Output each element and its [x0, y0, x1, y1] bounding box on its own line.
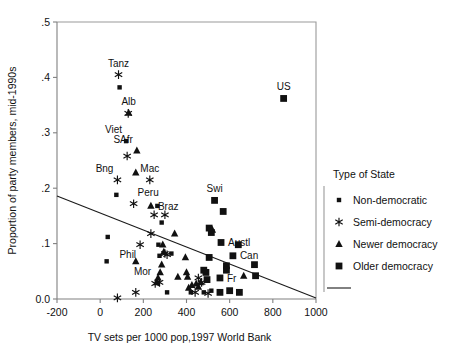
data-point-star — [161, 210, 168, 219]
legend-item-label: Semi-democracy — [353, 216, 433, 228]
data-point-triangle — [133, 146, 140, 153]
data-point-big-square — [206, 254, 213, 261]
data-point-big-square — [235, 241, 242, 248]
data-point-star — [114, 294, 121, 303]
legend-title: Type of State — [333, 168, 395, 180]
data-point-triangle — [174, 273, 181, 280]
point-label: Can — [240, 250, 258, 261]
data-point-triangle — [147, 202, 154, 209]
legend-marker-star — [335, 218, 342, 227]
data-point-big-square — [226, 287, 233, 294]
point-label: Swi — [206, 183, 222, 194]
legend-item-label: Newer democracy — [353, 238, 438, 250]
data-point-triangle — [156, 268, 163, 275]
data-point-big-square — [200, 267, 207, 274]
scatter-plot-figure: 0.0.1.2.3.4.5-20002004006008001000TV set… — [0, 0, 449, 350]
data-point-big-square — [204, 276, 211, 283]
data-point-big-square — [236, 289, 243, 296]
data-point-star — [115, 70, 122, 79]
data-point-star — [130, 199, 137, 208]
x-tick-label: 800 — [264, 306, 282, 318]
data-point-big-square — [230, 252, 237, 259]
x-tick-label: -200 — [46, 306, 67, 318]
x-tick-label: 400 — [178, 306, 196, 318]
legend-marker-big-square — [336, 263, 343, 270]
x-tick-label: 200 — [135, 306, 153, 318]
legend-item-label: Non-democratic — [353, 194, 427, 206]
data-point-small-square — [114, 193, 118, 197]
x-axis-title: TV sets per 1000 pop,1997 World Bank — [88, 331, 272, 343]
point-label: SAfr — [113, 134, 133, 145]
point-label: Peru — [138, 187, 159, 198]
data-point-triangle — [171, 230, 178, 237]
data-point-star — [136, 240, 143, 249]
data-point-triangle — [183, 268, 190, 275]
y-tick-label: .5 — [41, 16, 50, 28]
x-tick-label: 1000 — [304, 306, 328, 318]
y-tick-label: .4 — [41, 71, 50, 83]
data-point-big-square — [217, 275, 224, 282]
point-label: Phil — [119, 249, 136, 260]
data-point-big-square — [251, 261, 258, 268]
legend-item-label: Older democracy — [353, 260, 434, 272]
y-tick-label: 0.0 — [35, 293, 50, 305]
data-point-star — [150, 210, 157, 219]
x-tick-label: 600 — [221, 306, 239, 318]
data-point-big-square — [220, 208, 227, 215]
point-label: Tanz — [108, 58, 129, 69]
y-axis-title: Proportion of party members, mid-1990s — [6, 67, 18, 255]
data-point-triangle — [182, 253, 189, 260]
y-tick-label: .1 — [41, 237, 50, 249]
legend-marker-triangle — [335, 240, 342, 247]
data-point-star — [146, 176, 153, 185]
x-tick-label: 0 — [97, 306, 103, 318]
point-label: US — [277, 81, 291, 92]
trend-line — [57, 196, 316, 298]
data-point-small-square — [159, 220, 163, 224]
data-point-triangle — [160, 248, 167, 255]
point-label: Braz — [158, 201, 179, 212]
data-point-triangle — [240, 272, 247, 279]
point-label: Mac — [140, 163, 159, 174]
data-point-small-square — [165, 290, 169, 294]
chart-canvas: 0.0.1.2.3.4.5-20002004006008001000TV set… — [0, 0, 449, 350]
data-point-small-square — [106, 235, 110, 239]
data-point-triangle — [132, 169, 139, 176]
data-point-small-square — [117, 85, 121, 89]
data-point-big-square — [280, 95, 287, 102]
point-label: Alb — [121, 96, 136, 107]
legend-marker-small-square — [337, 198, 341, 202]
data-point-big-square — [218, 239, 225, 246]
data-point-big-square — [252, 272, 259, 279]
y-tick-label: .2 — [41, 182, 50, 194]
data-point-big-square — [208, 229, 215, 236]
y-tick-label: .3 — [41, 126, 50, 138]
data-point-small-square — [104, 259, 108, 263]
data-point-star — [132, 288, 139, 297]
data-point-star — [114, 176, 121, 185]
data-point-big-square — [211, 197, 218, 204]
point-label: Mor — [134, 266, 152, 277]
data-point-big-square — [217, 289, 224, 296]
data-point-triangle — [158, 261, 165, 268]
point-label: Fr — [227, 273, 237, 284]
point-label: Bng — [96, 163, 114, 174]
data-point-star — [123, 152, 130, 161]
